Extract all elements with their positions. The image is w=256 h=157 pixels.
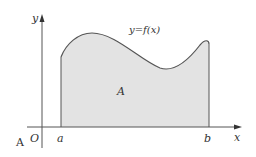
x-axis-label: x (234, 131, 241, 144)
function-label: y=f(x) (128, 24, 160, 35)
a-label: a (57, 132, 64, 145)
b-label: b (204, 132, 211, 145)
shaded-area (61, 33, 209, 127)
area-under-curve-diagram: y x O a b y=f(x) A A (0, 0, 256, 157)
corner-label: A (15, 136, 25, 149)
origin-label: O (30, 132, 39, 145)
area-label: A (116, 85, 125, 98)
y-axis-arrow-icon (40, 14, 45, 22)
x-axis-arrow-icon (234, 125, 242, 130)
y-axis-label: y (31, 12, 39, 25)
